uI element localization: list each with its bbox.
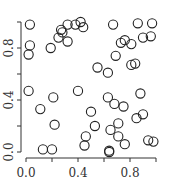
data-point (25, 20, 34, 29)
data-point (36, 105, 45, 114)
data-point (136, 89, 145, 98)
data-point (133, 19, 142, 28)
data-point (38, 145, 47, 154)
x-tick-label: 0.8 (120, 166, 139, 180)
data-point (111, 51, 120, 60)
data-point (148, 19, 157, 28)
x-tick-label: 0.0 (16, 166, 35, 180)
data-point (109, 20, 118, 29)
data-point (90, 121, 99, 130)
data-point (76, 17, 85, 26)
data-point (79, 23, 88, 32)
scatter-chart: 0.00.40.80.00.40.8 (0, 0, 171, 184)
data-point (63, 37, 72, 46)
data-point (110, 99, 119, 108)
x-tick-label: 0.4 (68, 166, 87, 180)
data-point (24, 86, 33, 95)
data-point (86, 107, 95, 116)
data-point (24, 50, 33, 59)
data-point (120, 140, 129, 149)
y-tick-label: 0.0 (2, 142, 16, 161)
y-tick-label: 0.8 (2, 38, 16, 57)
data-point (73, 86, 82, 95)
data-point (114, 119, 123, 128)
data-point (49, 93, 58, 102)
data-point (25, 41, 34, 50)
scatter-plot-canvas: 0.00.40.80.00.40.8 (0, 0, 171, 184)
data-point (47, 145, 56, 154)
data-point (50, 120, 59, 129)
data-point (106, 125, 115, 134)
data-point (149, 137, 158, 146)
data-point (93, 63, 102, 72)
data-points (24, 17, 158, 156)
data-point (114, 132, 123, 141)
data-point (119, 102, 128, 111)
data-point (57, 25, 66, 34)
data-point (103, 68, 112, 77)
data-point (81, 132, 90, 141)
data-point (46, 43, 55, 52)
data-point (80, 141, 89, 150)
y-tick-label: 0.4 (2, 90, 16, 109)
